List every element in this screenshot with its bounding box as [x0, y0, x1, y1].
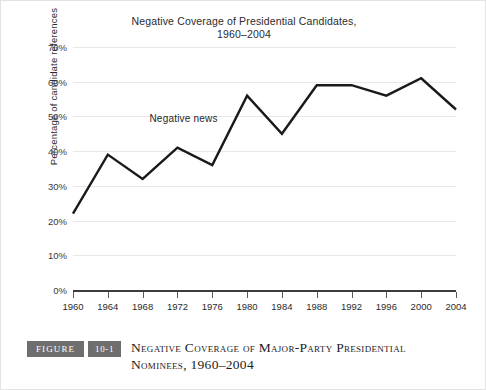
chart-title: Negative Coverage of Presidential Candid… [1, 15, 486, 41]
y-axis-tick-label: 50% [27, 111, 67, 122]
figure-container: Negative Coverage of Presidential Candid… [0, 0, 486, 390]
figure-caption: FIGURE 10-1 Negative Coverage of Major-P… [27, 341, 467, 373]
caption-text: Negative Coverage of Major-Party Preside… [131, 339, 406, 373]
x-axis-tick [73, 292, 74, 298]
x-axis-tick [282, 292, 283, 298]
x-axis-tick [177, 292, 178, 298]
y-axis-tick-label: 30% [27, 180, 67, 191]
y-axis-tick-label: 0% [27, 285, 67, 296]
x-axis-tick [386, 292, 387, 298]
y-axis-tick-label: 40% [27, 146, 67, 157]
x-axis-tick [421, 292, 422, 298]
x-axis-tick [108, 292, 109, 298]
x-axis-tick [352, 292, 353, 298]
x-axis-tick [317, 292, 318, 298]
x-axis-tick [212, 292, 213, 298]
y-axis-tick-label: 20% [27, 215, 67, 226]
chart-title-line-2: 1960–2004 [1, 28, 486, 41]
y-axis-tick-label: 60% [27, 76, 67, 87]
y-axis-tick-label: 10% [27, 250, 67, 261]
y-axis-tick-labels: 0%10%20%30%40%50%60%70% [23, 47, 67, 290]
caption-line-2: Nominees, 1960–2004 [131, 357, 254, 372]
chart-title-line-1: Negative Coverage of Presidential Candid… [1, 15, 486, 28]
caption-badge-figure: FIGURE [27, 341, 84, 357]
series-negative-news [73, 47, 456, 290]
annotation-negative-news: Negative news [149, 113, 217, 124]
x-axis-tick-label: 2004 [436, 301, 476, 312]
x-axis-tick [143, 292, 144, 298]
y-axis-tick-label: 70% [27, 42, 67, 53]
caption-badge-number: 10-1 [88, 341, 121, 357]
x-axis-tick [456, 292, 457, 298]
caption-line-1: Negative Coverage of Major-Party Preside… [131, 340, 406, 355]
x-axis-tick [247, 292, 248, 298]
x-axis-line [73, 290, 456, 292]
